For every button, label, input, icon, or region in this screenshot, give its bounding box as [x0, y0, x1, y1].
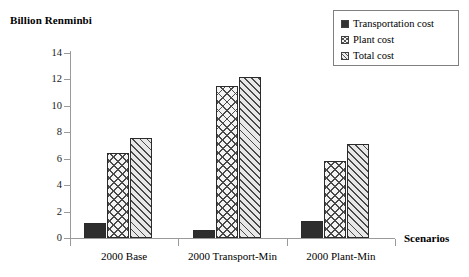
- legend-swatch-crosshatch-icon: [341, 36, 349, 44]
- x-axis-title: Scenarios: [404, 232, 449, 244]
- bar: [239, 77, 261, 238]
- y-axis-tick-label: 14: [22, 47, 62, 58]
- bar: [193, 230, 215, 238]
- x-axis-line: [70, 238, 395, 239]
- x-axis-tick: [395, 239, 396, 246]
- bar: [347, 144, 369, 238]
- y-axis-tick-label: 10: [22, 100, 62, 111]
- bar: [107, 153, 129, 238]
- y-axis-tick-label: 2: [22, 206, 62, 217]
- x-axis-category-label: 2000 Transport-Min: [188, 250, 277, 262]
- y-axis-title: Billion Renminbi: [10, 14, 92, 26]
- y-axis-tick-label: 0: [22, 232, 62, 243]
- bar: [84, 223, 106, 238]
- bar: [216, 86, 238, 238]
- legend-label-transportation-cost: Transportation cost: [353, 18, 434, 29]
- bar: [324, 161, 346, 238]
- x-axis-category-label: 2000 Base: [101, 250, 147, 262]
- y-axis-tick-label: 8: [22, 126, 62, 137]
- legend-label-plant-cost: Plant cost: [353, 34, 394, 45]
- x-axis-tick: [70, 239, 71, 246]
- x-axis-tick: [287, 239, 288, 246]
- plot-area: [70, 53, 395, 238]
- legend-item-transportation-cost: Transportation cost: [341, 16, 454, 31]
- bar: [130, 138, 152, 238]
- chart-figure: Billion Renminbi Transportation cost Pla…: [0, 0, 469, 277]
- y-axis-tick-label: 6: [22, 153, 62, 164]
- x-axis-tick: [178, 239, 179, 246]
- y-axis-tick-label: 4: [22, 179, 62, 190]
- legend-swatch-solid-icon: [341, 20, 349, 28]
- legend-item-plant-cost: Plant cost: [341, 32, 454, 47]
- bar: [301, 221, 323, 238]
- y-axis-tick-label: 12: [22, 73, 62, 84]
- x-axis-category-label: 2000 Plant-Min: [306, 250, 375, 262]
